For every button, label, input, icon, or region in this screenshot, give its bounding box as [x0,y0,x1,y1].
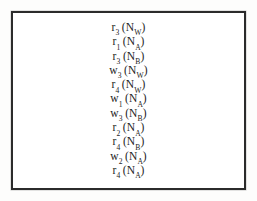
operation-trace-list: r3(NW)r1(NA)r3(NB)w3(NW)r4(NW)w1(NA)w3(N… [13,20,244,177]
data-item-subscript: A [135,129,140,138]
trace-line: w3(NW) [13,63,244,77]
operation-letter: r [112,21,116,33]
trace-line: w1(NA) [13,91,244,105]
operation-subscript: 4 [116,86,120,95]
data-item-letter: N [127,35,135,47]
operation-subscript: 2 [119,157,123,166]
operation-subscript: 1 [119,100,123,109]
data-item-letter: N [126,78,134,90]
trace-line: r3(NB) [13,49,244,63]
data-item-subscript: B [135,143,140,152]
data-item-subscript: W [134,86,141,95]
trace-line: r1(NA) [13,34,244,48]
data-item-letter: N [127,121,135,133]
operation-subscript: 3 [116,28,120,37]
operation-letter: r [112,78,116,90]
close-paren: ) [143,150,147,162]
operation-letter: w [110,107,118,119]
data-item-subscript: A [137,100,142,109]
trace-line: r4(NA) [13,163,244,177]
operation-subscript: 3 [119,114,123,123]
operation-subscript: 2 [116,129,120,138]
close-paren: ) [140,50,144,62]
data-item-subscript: W [137,71,144,80]
close-paren: ) [141,35,145,47]
trace-line: r4(NW) [13,77,244,91]
data-item-letter: N [126,21,134,33]
operation-subscript: 4 [117,143,121,152]
trace-line: r2(NA) [13,120,244,134]
close-paren: ) [141,21,145,33]
data-item-subscript: A [137,157,142,166]
operation-subscript: 1 [116,43,120,52]
trace-line: w3(NB) [13,106,244,120]
close-paren: ) [140,135,144,147]
data-item-letter: N [127,164,135,176]
trace-line: r4(NB) [13,134,244,148]
data-item-subscript: A [135,171,140,180]
close-paren: ) [144,64,148,76]
close-paren: ) [143,107,147,119]
trace-line: r3(NW) [13,20,244,34]
operation-subscript: 4 [116,171,120,180]
trace-frame-border: r3(NW)r1(NA)r3(NB)w3(NW)r4(NW)w1(NA)w3(N… [11,11,246,190]
data-item-subscript: B [135,57,140,66]
operation-subscript: 3 [118,71,122,80]
figure-root: r3(NW)r1(NA)r3(NB)w3(NW)r4(NW)w1(NA)w3(N… [0,0,257,201]
data-item-subscript: B [138,114,143,123]
close-paren: ) [143,92,147,104]
data-item-subscript: A [135,43,140,52]
operation-subscript: 3 [117,57,121,66]
trace-line: w2(NA) [13,149,244,163]
data-item-subscript: W [134,28,141,37]
